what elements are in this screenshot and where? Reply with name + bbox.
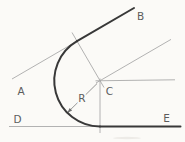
line-b-thick-segment xyxy=(77,8,134,41)
label-line-a: A xyxy=(17,85,25,97)
paper-smudge xyxy=(113,137,141,139)
line-a-thin-segment xyxy=(12,41,77,79)
label-radius-r: R xyxy=(78,92,85,104)
offset-parallel-to-ab-line xyxy=(96,39,171,83)
tangent-arc-construction-drawing: A B C D E R xyxy=(0,0,185,142)
label-line-d: D xyxy=(13,113,21,125)
diagram-canvas: A B C D E R xyxy=(0,0,185,142)
label-line-b: B xyxy=(137,10,144,22)
label-center-c: C xyxy=(106,85,113,97)
label-line-e: E xyxy=(163,112,170,124)
offset-parallel-to-de-line xyxy=(96,80,176,81)
fillet-arc xyxy=(54,41,100,126)
